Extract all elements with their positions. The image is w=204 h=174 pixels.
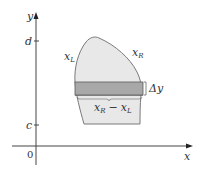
region-diagram: y x 0 d c xL xR Δy xR−xL (0, 0, 204, 174)
x-axis-label: x (184, 150, 191, 163)
strip-width-label: xR−xL (94, 101, 132, 115)
x-right-label: xR (132, 46, 144, 60)
y-axis-arrow (34, 12, 39, 19)
delta-y-bracket (144, 82, 146, 95)
d-label: d (25, 35, 32, 48)
origin-label: 0 (27, 149, 33, 160)
horizontal-strip (75, 82, 143, 95)
y-axis-label: y (26, 10, 34, 23)
c-label: c (26, 119, 32, 132)
x-left-label: xL (64, 50, 75, 64)
x-axis-arrow (186, 144, 193, 149)
delta-y-label: Δy (148, 82, 164, 95)
